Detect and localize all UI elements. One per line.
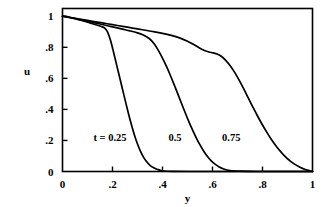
curve-annotation-2: 0.5 <box>168 132 181 143</box>
x-tick-label: 1 <box>310 178 316 190</box>
x-axis-title: y <box>185 192 191 204</box>
y-tick-label: .6 <box>45 72 54 84</box>
x-tick-label: .6 <box>208 178 217 190</box>
curve-3 <box>63 16 313 171</box>
y-tick-label: 1 <box>48 10 54 22</box>
y-tick-label: .2 <box>45 134 54 146</box>
x-tick-label: .4 <box>158 178 167 190</box>
x-tick-label: .8 <box>258 178 267 190</box>
chart-figure: 0.2.4.6.810.2.4.6.81yut = 0.250.50.75 <box>0 0 330 207</box>
curve-2 <box>63 16 313 171</box>
x-tick-label: .2 <box>108 178 117 190</box>
y-axis-title: u <box>24 65 30 77</box>
plot-frame <box>63 9 313 172</box>
chart-canvas: 0.2.4.6.810.2.4.6.81yut = 0.250.50.75 <box>0 0 330 207</box>
y-tick-label: .8 <box>45 41 54 53</box>
curve-1 <box>63 16 313 171</box>
curve-annotation-3: 0.75 <box>222 132 240 143</box>
y-tick-label: 0 <box>48 166 54 178</box>
y-tick-label: .4 <box>45 103 54 115</box>
curve-annotation-1: t = 0.25 <box>93 132 126 143</box>
x-tick-label: 0 <box>60 178 66 190</box>
